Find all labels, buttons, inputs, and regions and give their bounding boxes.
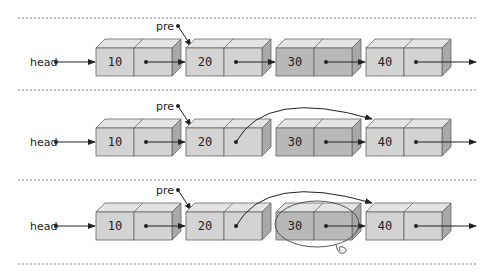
list-node-40: 40: [366, 39, 451, 76]
list-node-40: 40: [366, 203, 451, 240]
list-node-20: 20: [186, 203, 271, 240]
node-value: 40: [378, 135, 392, 149]
node-value: 40: [378, 219, 392, 233]
pre-label: pre: [156, 184, 174, 197]
pre-label: pre: [156, 100, 174, 113]
head-label: head: [30, 56, 57, 69]
list-node-30: 30: [276, 39, 361, 76]
head-label: head: [30, 136, 57, 149]
node-value: 10: [108, 55, 122, 69]
node-value: 10: [108, 219, 122, 233]
row-step-2: headpre10203040: [30, 100, 476, 156]
linked-list-diagram: headpre10203040headpre10203040headpre102…: [0, 0, 486, 276]
list-node-20: 20: [186, 39, 271, 76]
list-node-30: 30: [276, 119, 361, 156]
list-node-40: 40: [366, 119, 451, 156]
row-step-1: headpre10203040: [30, 20, 476, 76]
node-value: 10: [108, 135, 122, 149]
node-value: 30: [288, 135, 302, 149]
pre-label: pre: [156, 20, 174, 33]
node-value: 30: [288, 55, 302, 69]
row-step-3: headpre10203040: [30, 184, 476, 253]
list-node-10: 10: [96, 39, 181, 76]
circle-tail: [336, 245, 346, 253]
list-node-10: 10: [96, 119, 181, 156]
node-value: 40: [378, 55, 392, 69]
list-node-10: 10: [96, 203, 181, 240]
node-value: 30: [288, 219, 302, 233]
head-label: head: [30, 220, 57, 233]
node-value: 20: [198, 135, 212, 149]
node-value: 20: [198, 219, 212, 233]
node-value: 20: [198, 55, 212, 69]
list-node-20: 20: [186, 119, 271, 156]
